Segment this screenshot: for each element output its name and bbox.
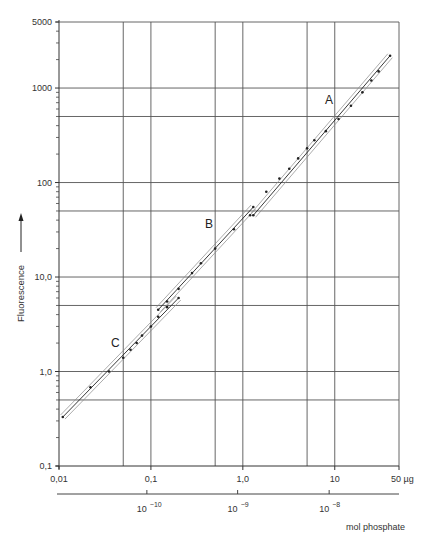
data-point [252,214,255,217]
data-point [288,167,291,170]
confidence-band-line [156,205,251,308]
data-point [361,91,364,94]
x2-tick-label: 10 [319,504,329,514]
data-point [157,308,160,311]
y-tick-label: 100 [37,178,52,188]
x-tick-label: 10 [330,474,340,484]
data-point [377,70,380,73]
data-point [278,177,281,180]
y-tick-label: 1,0 [39,367,52,377]
data-point [389,54,392,57]
data-point [157,315,160,318]
y-tick-label: 5000 [32,17,52,27]
data-point [200,262,203,265]
y-tick-label: 1000 [32,83,52,93]
data-point [325,130,328,133]
data-point [141,334,144,337]
data-point [166,306,169,309]
data-point [370,79,373,82]
y-axis-label: Fluorescence [15,265,26,322]
fluorescence-chart: 0,11,010,0100100050000,010,11,01050 µg10… [0,0,428,538]
data-point [350,104,353,107]
x2-tick-exponent: −8 [332,501,340,508]
x2-tick-label: 10 [137,504,147,514]
regression-line [253,56,390,216]
data-point [150,325,153,328]
data-point [177,288,180,291]
data-point [191,272,194,275]
curve-label-c: C [111,336,120,350]
x2-tick-exponent: −10 [150,501,162,508]
x2-tick-label: 10 [228,504,238,514]
data-point [62,416,65,419]
data-point [306,147,309,150]
y-tick-label: 0,1 [39,461,52,471]
data-point [129,348,132,351]
x-tick-label: 0,01 [50,474,68,484]
x-tick-label: 0,1 [145,474,158,484]
data-point [177,297,180,300]
data-point [265,190,268,193]
data-point [122,356,125,359]
data-point [166,300,169,303]
data-point [135,342,138,345]
arrow-up-icon [19,213,24,221]
y-tick-label: 10,0 [34,272,52,282]
series-c [61,296,181,419]
regression-line [63,298,179,417]
x-tick-label: 50 µg [391,474,414,484]
curve-label-a: A [325,93,333,107]
data-point [313,139,316,142]
data-point [252,206,255,209]
x-tick-label: 1,0 [237,474,250,484]
x2-tick-exponent: −9 [241,501,249,508]
x2-axis-label: mol phosphate [346,522,405,532]
data-point [297,157,300,160]
data-point [214,247,217,250]
axis-labels: 0,11,010,0100100050000,010,11,01050 µg10… [15,17,414,532]
data-point [233,228,236,231]
series-a [251,54,392,218]
data-point [89,386,92,389]
data-series [61,54,393,419]
axes [19,20,400,494]
data-point [108,370,111,373]
data-point [249,214,252,217]
confidence-band-line [61,296,177,415]
grid-lines [59,22,399,466]
data-point [337,118,340,121]
curve-label-b: B [205,217,213,231]
confidence-band-line [251,54,388,214]
